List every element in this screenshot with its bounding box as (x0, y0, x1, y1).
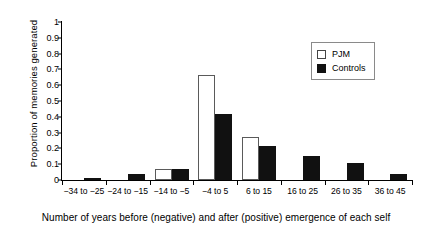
bar-controls (128, 174, 145, 180)
legend-label-controls: Controls (332, 64, 366, 73)
bar-chart: Proportion of memories generated 00.10.2… (0, 0, 432, 235)
x-tick-label: 6 to 15 (246, 187, 272, 196)
legend-swatch-filled-icon (317, 64, 326, 73)
bar-group (67, 22, 101, 180)
legend: PJM Controls (311, 42, 375, 80)
x-tick-label: −14 to −5 (153, 187, 189, 196)
x-axis-title: Number of years before (negative) and af… (0, 212, 432, 223)
x-tick-mark (325, 180, 326, 185)
y-tick-label: 0.1 (46, 160, 59, 169)
x-tick-label: 36 to 45 (375, 187, 406, 196)
x-tick-mark (412, 180, 413, 185)
legend-label-pjm: PJM (332, 50, 350, 59)
x-tick-mark (237, 180, 238, 185)
bar-controls (84, 178, 101, 180)
bar-pjm (198, 75, 215, 180)
x-tick-mark (193, 180, 194, 185)
x-tick-label: −4 to 5 (202, 187, 228, 196)
y-tick-label: 0.9 (46, 33, 59, 42)
y-tick-label: 0.6 (46, 81, 59, 90)
y-tick-label: 0.5 (46, 97, 59, 106)
x-tick-mark (281, 180, 282, 185)
bar-group (198, 22, 232, 180)
x-tick-label: 16 to 25 (287, 187, 318, 196)
y-tick-label: 0.2 (46, 144, 59, 153)
bar-group (373, 22, 407, 180)
y-tick-label: 0.7 (46, 65, 59, 74)
y-tick-label: 1 (54, 18, 59, 27)
bar-group (111, 22, 145, 180)
bar-controls (303, 156, 320, 180)
bar-controls (259, 146, 276, 180)
x-tick-label: 26 to 35 (331, 187, 362, 196)
y-tick-label: 0.8 (46, 49, 59, 58)
bar-controls (172, 169, 189, 180)
legend-swatch-open-icon (317, 50, 326, 59)
x-tick-mark (368, 180, 369, 185)
legend-item-controls: Controls (317, 61, 366, 75)
bar-pjm (242, 137, 259, 180)
y-tick-label: 0.4 (46, 112, 59, 121)
y-tick-label: 0.3 (46, 128, 59, 137)
x-tick-label: −34 to −25 (64, 187, 105, 196)
y-tick-label: 0 (54, 176, 59, 185)
x-tick-label: −24 to −15 (107, 187, 148, 196)
x-tick-mark (62, 180, 63, 185)
legend-item-pjm: PJM (317, 47, 366, 61)
bar-controls (347, 163, 364, 180)
bar-controls (390, 174, 407, 180)
x-tick-mark (106, 180, 107, 185)
x-tick-mark (150, 180, 151, 185)
bar-pjm (155, 169, 172, 180)
bar-controls (215, 114, 232, 180)
bar-group (242, 22, 276, 180)
y-axis-title: Proportion of memories generated (28, 9, 39, 179)
bar-group (155, 22, 189, 180)
